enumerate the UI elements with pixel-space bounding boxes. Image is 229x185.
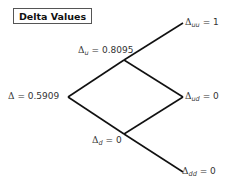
node-uu-subscript: uu (192, 21, 200, 29)
node-d-label: Δd = 0 (92, 135, 122, 147)
node-ud-value: = 0 (203, 91, 219, 101)
edge-down-dd (124, 134, 183, 172)
edge-down-ud (124, 97, 183, 134)
edge-root-down (68, 97, 124, 134)
node-d-subscript: d (99, 139, 103, 147)
node-d-value: = 0 (106, 135, 122, 145)
edge-up-ud (124, 60, 183, 97)
node-ud-subscript: ud (192, 95, 200, 103)
node-dd-value: = 0 (200, 166, 216, 176)
node-dd-label: Δdd = 0 (182, 166, 216, 178)
node-ud-label: Δud = 0 (185, 91, 219, 103)
delta-symbol: Δ (8, 91, 15, 101)
node-u-subscript: u (85, 49, 89, 57)
node-u-label: Δu = 0.8095 (78, 45, 133, 57)
node-uu-label: Δuu = 1 (185, 17, 219, 29)
node-root-label: Δ = 0.5909 (8, 91, 59, 101)
edge-root-up (68, 60, 124, 97)
node-uu-value: = 1 (203, 17, 219, 27)
node-u-value: = 0.8095 (92, 45, 134, 55)
node-dd-subscript: dd (189, 170, 197, 178)
node-root-value: = 0.5909 (17, 91, 59, 101)
